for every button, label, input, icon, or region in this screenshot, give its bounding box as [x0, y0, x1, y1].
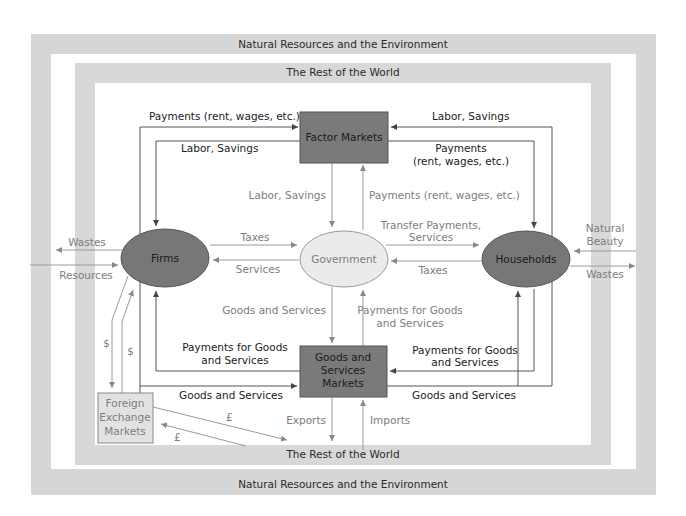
- forex-node: Foreign Exchange Markets: [98, 393, 153, 443]
- label-households-payments-1: Payments for Goods: [412, 344, 518, 356]
- label-natural-beauty-1: Natural: [586, 222, 625, 234]
- factor-markets-label: Factor Markets: [305, 131, 382, 143]
- label-pound-1: £: [226, 411, 233, 423]
- band-label-world-bottom: The Rest of the World: [285, 448, 399, 460]
- goods-markets-label-1: Goods and: [315, 351, 371, 363]
- label-firms-payments-goods-1: Payments for Goods: [182, 341, 288, 353]
- label-gov-payments-1: Payments for Goods: [357, 304, 463, 316]
- factor-markets-node: Factor Markets: [300, 112, 388, 163]
- band-label-world-top: The Rest of the World: [285, 66, 399, 78]
- label-firms-payments-goods-2: and Services: [201, 354, 268, 366]
- label-pound-2: £: [174, 431, 181, 443]
- label-firms-taxes: Taxes: [240, 231, 270, 243]
- label-gov-factor-payments: Payments (rent, wages, etc.): [369, 189, 520, 201]
- goods-markets-label-3: Markets: [322, 377, 364, 389]
- label-imports: Imports: [370, 414, 410, 426]
- forex-label-1: Foreign: [106, 397, 145, 409]
- circular-flow-diagram: Natural Resources and the Environment Th…: [0, 0, 686, 516]
- forex-label-3: Markets: [104, 425, 146, 437]
- label-factor-gov-labor: Labor, Savings: [249, 189, 326, 201]
- label-exports: Exports: [286, 414, 326, 426]
- label-households-labor: Labor, Savings: [432, 110, 509, 122]
- label-households-taxes: Taxes: [418, 264, 448, 276]
- label-households-wastes: Wastes: [586, 268, 624, 280]
- goods-markets-node: Goods and Services Markets: [300, 346, 387, 397]
- label-factor-payments-2: (rent, wages, etc.): [413, 155, 509, 167]
- label-transfers-2: Services: [409, 231, 453, 243]
- government-label: Government: [311, 253, 376, 265]
- label-firms-goods: Goods and Services: [179, 389, 283, 401]
- band-label-environment-bottom: Natural Resources and the Environment: [238, 478, 448, 490]
- label-factor-labor: Labor, Savings: [181, 142, 258, 154]
- label-households-goods: Goods and Services: [412, 389, 516, 401]
- label-dollar-1: $: [103, 337, 110, 349]
- government-node: Government: [300, 231, 388, 287]
- households-node: Households: [482, 231, 570, 287]
- band-label-environment-top: Natural Resources and the Environment: [238, 38, 448, 50]
- label-goods-to-gov: Goods and Services: [222, 304, 326, 316]
- label-natural-beauty-2: Beauty: [586, 235, 623, 247]
- forex-label-2: Exchange: [99, 411, 150, 423]
- firms-node: Firms: [121, 229, 209, 287]
- label-firms-wastes: Wastes: [68, 236, 106, 248]
- label-gov-services: Services: [236, 263, 280, 275]
- label-resources: Resources: [59, 269, 113, 281]
- label-transfers-1: Transfer Payments,: [380, 219, 481, 231]
- households-label: Households: [495, 253, 556, 265]
- label-gov-payments-2: and Services: [376, 317, 443, 329]
- label-dollar-2: $: [127, 345, 134, 357]
- label-firms-payments: Payments (rent, wages, etc.): [149, 110, 300, 122]
- firms-label: Firms: [151, 252, 179, 264]
- label-households-payments-2: and Services: [431, 356, 498, 368]
- goods-markets-label-2: Services: [321, 364, 365, 376]
- label-factor-payments-1: Payments: [435, 142, 486, 154]
